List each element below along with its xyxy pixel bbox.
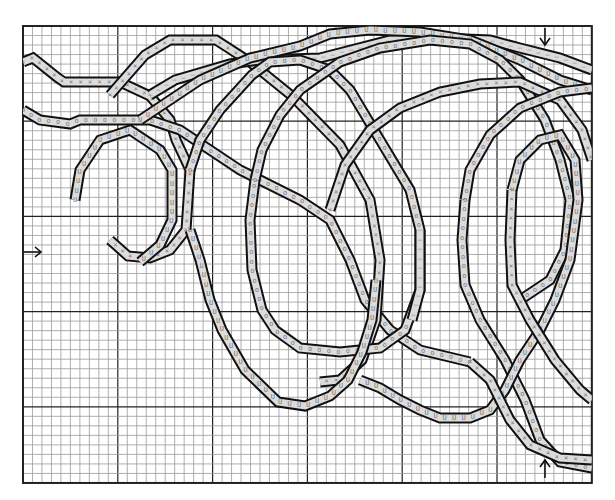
stitch-symbol: o [236,86,240,94]
stitch-symbol: U [93,144,97,152]
stitch-symbol: o [463,281,467,289]
stitch-symbol: U [471,413,475,421]
stitch-symbol: o [498,348,502,356]
stitch-symbol: o [250,267,254,275]
stitch-symbol: × [209,36,213,44]
stitch-symbol: × [174,135,178,143]
stitch-symbol: × [127,70,131,78]
stitch-symbol: × [412,98,416,106]
stitch-symbol: o [248,229,252,237]
stitch-symbol: × [339,144,343,152]
stitch-symbol: U [336,29,340,37]
stitch-symbol: U [263,50,267,58]
stitch-symbol: U [505,382,509,390]
stitch-symbol: × [181,36,185,44]
stitch-symbol: o [357,51,361,59]
stitch-symbol: o [378,135,382,143]
stitch-symbol: o [492,127,496,135]
stitch-symbol: U [264,386,268,394]
stitch-symbol: U [332,389,336,397]
stitch-symbol: U [107,133,111,141]
stitch-symbol: × [354,145,358,153]
stitch-symbol: × [128,252,132,260]
stitch-symbol: o [470,299,474,307]
stitch-symbol: o [308,79,312,87]
stitch-symbol: o [282,106,286,114]
stitch-symbol: U [572,227,576,235]
stitch-symbol: U [575,180,579,188]
stitch-symbol: U [193,79,197,87]
stitch-symbol: o [383,320,387,328]
stitch-symbol: o [466,177,470,185]
stitch-symbol: U [219,67,223,75]
stitch-symbol: o [541,281,545,289]
stitch-symbol: o [348,87,352,95]
stitch-symbol: U [250,373,254,381]
stitch-symbol: U [488,406,492,414]
stitch-symbol: U [565,264,569,272]
stitch-symbol: o [47,117,51,125]
stitch-symbol: × [97,78,101,86]
stitch-symbol: U [239,358,243,366]
stitch-symbol: × [154,44,158,52]
stitch-symbol: × [509,252,513,260]
stitch-symbol: o [413,343,417,351]
stitch-symbol: o [503,356,507,364]
stitch-symbol: × [508,243,512,251]
stitch-symbol: U [170,95,174,103]
stitch-symbol: o [300,85,304,93]
stitch-symbol: o [545,121,549,129]
stitch-symbol: o [268,131,272,139]
stitch-symbol: U [76,177,80,185]
stitch-symbol: o [547,92,551,100]
stitch-symbol: U [209,299,213,307]
stitch-symbol: o [363,111,367,119]
stitch-symbol: × [328,206,332,214]
stitch-symbol: o [168,123,172,131]
stitch-symbol: o [403,40,407,48]
stitch-symbol: U [416,405,420,413]
stitch-symbol: U [543,317,547,325]
stitch-symbol: o [520,390,524,398]
stitch-symbol: U [393,27,397,35]
stitch-symbol: × [331,197,335,205]
stitch-symbol: U [202,271,206,279]
stitch-symbol: o [462,262,466,270]
stitch-symbol: × [513,78,517,86]
stitch-symbol: o [474,307,478,315]
stitch-symbol: × [584,391,588,399]
stitch-symbol: U [371,305,375,313]
stitch-symbol: U [365,379,369,387]
stitch-symbol: × [577,384,581,392]
stitch-symbol: U [210,71,214,79]
stitch-symbol: U [402,27,406,35]
stitch-symbol: U [364,26,368,34]
stitch-symbol: × [367,194,371,202]
stitch-symbol: o [327,347,331,355]
stitch-symbol: o [316,208,320,216]
stitch-symbol: U [571,152,575,160]
stitch-symbol: × [529,441,533,449]
stitch-symbol: × [482,371,486,379]
stitch-symbol: × [234,49,238,57]
stitch-symbol: U [125,127,129,135]
stitch-symbol: o [516,382,520,390]
stitch-symbol: o [259,304,263,312]
stitch-symbol: × [113,241,117,249]
stitch-symbol: × [497,394,501,402]
stitch-symbol: o [283,189,287,197]
stitch-symbol: U [564,78,568,86]
stitch-symbol: o [360,289,364,297]
stitch-symbol: × [532,323,536,331]
stitch-symbol: o [209,147,213,155]
stitch-symbol: × [569,111,573,119]
stitch-symbol: o [257,295,261,303]
stitch-symbol: U [362,342,366,350]
stitch-symbol: o [353,95,357,103]
stitch-symbol: U [374,26,378,34]
stitch-symbol: o [287,99,291,107]
stitch-symbol: o [185,131,189,139]
stitch-symbol: × [517,427,521,435]
stitch-symbol: o [537,435,541,443]
stitch-symbol: o [513,108,517,116]
